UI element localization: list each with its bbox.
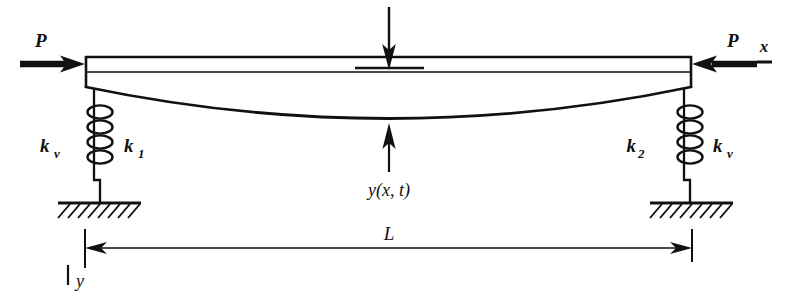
- right-ground-support: [650, 203, 733, 218]
- right-outer-spring-label-subscript: v: [727, 146, 733, 161]
- left-spring-coil-2: [88, 120, 113, 133]
- beam-diagram-figure: P P x: [0, 0, 791, 299]
- right-ground-hatching: [650, 204, 732, 218]
- right-spring-bottom-lead: [684, 168, 690, 203]
- right-inner-spring-label: k: [627, 135, 637, 156]
- left-spring-bottom-lead: [94, 168, 100, 203]
- left-ground-support: [58, 203, 141, 218]
- left-spring-coil-1: [88, 105, 113, 118]
- axial-load-right-label: P: [726, 30, 739, 51]
- right-spring-coil-4: [678, 150, 703, 163]
- left-inner-spring-label: k: [124, 135, 134, 156]
- center-load-arrow-group: [355, 7, 424, 70]
- left-inner-spring-label-subscript: 1: [138, 146, 145, 161]
- y-axis-marker-group: y: [68, 265, 84, 291]
- left-ground-hatching: [58, 204, 140, 218]
- axial-load-right-group: P: [692, 30, 757, 73]
- left-spring-support: [88, 88, 113, 203]
- left-spring-coil-3: [88, 135, 113, 148]
- x-axis-marker-group: x: [757, 37, 772, 62]
- right-outer-spring-label: k: [713, 135, 723, 156]
- axial-load-left-label: P: [34, 30, 47, 51]
- diagram-canvas: P P x: [0, 0, 791, 299]
- right-spring-coil-2: [678, 120, 703, 133]
- left-outer-spring-label: k: [40, 135, 50, 156]
- left-spring-coil-4: [88, 150, 113, 163]
- deflection-curve: [86, 87, 691, 119]
- deflection-curve-group: [86, 87, 691, 119]
- x-axis-label: x: [759, 37, 769, 56]
- y-axis-label: y: [74, 271, 84, 291]
- deflection-callout-group: y(x, t): [366, 123, 410, 201]
- left-outer-spring-label-subscript: v: [54, 146, 60, 161]
- right-spring-support: [678, 88, 703, 203]
- right-spring-coil-1: [678, 105, 703, 118]
- span-dimension-group: L: [85, 223, 692, 268]
- right-inner-spring-label-subscript: 2: [637, 146, 645, 161]
- axial-load-left-group: P: [20, 30, 85, 73]
- span-length-label: L: [383, 223, 395, 244]
- right-spring-coil-3: [678, 135, 703, 148]
- deflection-label: y(x, t): [366, 180, 410, 201]
